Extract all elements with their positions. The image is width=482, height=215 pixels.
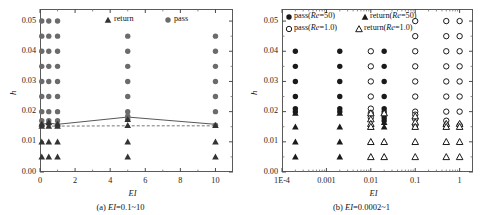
y-tick-label: 0.02 — [4, 106, 36, 115]
x-axis-label-b: EI — [370, 188, 378, 198]
panel-caption-a: (a) EI=0.1~10 — [0, 202, 241, 212]
y-tick-label: 0.00 — [4, 167, 36, 176]
y-axis-label-b: h — [249, 90, 259, 95]
legend-label-passRe50: pass(Re=50) — [294, 11, 335, 20]
x-tick-label: 2 — [55, 176, 95, 185]
x-tick-label: 4 — [90, 176, 130, 185]
legend-label-return: return — [114, 14, 134, 23]
x-tick-label: 6 — [125, 176, 165, 185]
y-tick-label: 0.04 — [246, 46, 278, 55]
x-axis-label-a: EI — [129, 188, 137, 198]
y-tick-label: 0.04 — [4, 46, 36, 55]
y-tick-label: 0.02 — [246, 106, 278, 115]
y-tick-label: 0.00 — [246, 167, 278, 176]
x-tick-label: 10 — [195, 176, 235, 185]
y-axis-label-a: h — [8, 90, 18, 95]
legend-label-passRe10: pass(Re=1.0) — [294, 23, 337, 32]
legend-label-returnRe10: return(Re=1.0) — [364, 23, 413, 32]
x-tick-label: 1E-4 — [262, 176, 302, 185]
x-tick-label: 0 — [20, 176, 60, 185]
figure-container: h EI (a) EI=0.1~10 0.000.010.020.030.040… — [0, 0, 482, 215]
x-tick-label: 1 — [440, 176, 480, 185]
y-tick-label: 0.01 — [4, 136, 36, 145]
panel-b: h EI (b) EI=0.0002~1 0.000.010.020.030.0… — [241, 0, 482, 215]
panel-a: h EI (a) EI=0.1~10 0.000.010.020.030.040… — [0, 0, 241, 215]
legend-label-returnRe50: return(Re=50) — [370, 11, 416, 20]
legend-label-pass: pass — [174, 14, 188, 23]
panel-caption-b: (b) EI=0.0002~1 — [241, 202, 482, 212]
y-tick-label: 0.05 — [4, 16, 36, 25]
x-tick-label: 0.1 — [395, 176, 435, 185]
y-tick-label: 0.05 — [246, 16, 278, 25]
y-tick-label: 0.03 — [4, 76, 36, 85]
x-tick-label: 0.001 — [306, 176, 346, 185]
y-tick-label: 0.01 — [246, 136, 278, 145]
y-tick-label: 0.03 — [246, 76, 278, 85]
x-tick-label: 8 — [160, 176, 200, 185]
x-tick-label: 0.01 — [351, 176, 391, 185]
